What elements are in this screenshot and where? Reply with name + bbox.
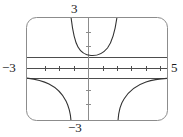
x-max-label: 5 bbox=[171, 61, 178, 74]
graph-figure: 3 −3 −3 5 bbox=[0, 0, 183, 137]
plot-canvas bbox=[0, 0, 183, 137]
y-min-label: −3 bbox=[68, 121, 82, 134]
x-min-label: −3 bbox=[2, 61, 16, 74]
y-max-label: 3 bbox=[71, 2, 78, 15]
